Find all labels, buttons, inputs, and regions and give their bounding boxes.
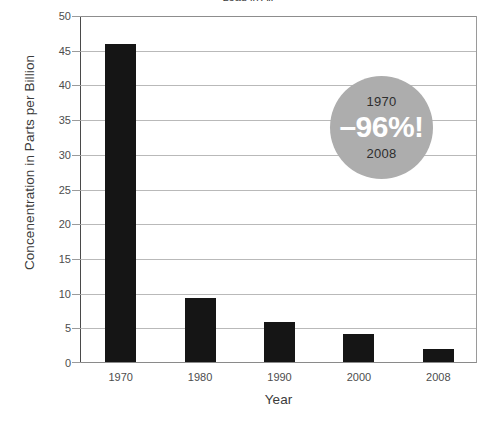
x-axis-tick-label: 1990 [267,371,291,383]
y-axis-tick-label: 45 [35,45,81,57]
annotation-end-year: 2008 [366,147,396,160]
gridline [81,51,476,52]
y-axis-tick-label: 40 [35,79,81,91]
gridline [81,362,476,363]
gridline [81,190,476,191]
gridline [81,85,476,86]
annotation-start-year: 1970 [366,95,396,108]
gridline [81,224,476,225]
y-axis-tick-label: 5 [35,322,81,334]
percent-change-annotation: 1970 –96%! 2008 [330,76,433,179]
y-axis-title: Concenentration in Parts per Billion [22,13,37,313]
y-axis-tick-label: 35 [35,114,81,126]
y-axis-tick-label: 25 [35,184,81,196]
x-axis-tick-label: 1980 [188,371,212,383]
gridline [81,259,476,260]
chart-page: Lead in Air Concenentration in Parts per… [0,0,497,427]
cropped-chart-title: Lead in Air [0,0,497,3]
bar-1980 [185,298,216,362]
x-axis-tick-label: 2000 [347,371,371,383]
bar-2008 [423,349,454,362]
x-axis-tick-label: 2008 [426,371,450,383]
bar-2000 [343,334,374,362]
annotation-percent-change: –96%! [339,112,423,142]
bar-1990 [264,322,295,362]
y-axis-tick-label: 50 [35,10,81,22]
plot-area: 0510152025303540455019701980199020002008 [80,16,477,363]
y-axis-tick-label: 15 [35,253,81,265]
y-axis-tick-label: 10 [35,288,81,300]
y-axis-tick-label: 20 [35,218,81,230]
gridline [81,16,476,17]
y-axis-tick-label: 30 [35,149,81,161]
y-axis-tick-label: 0 [35,357,81,369]
x-axis-title: Year [80,392,477,407]
gridline [81,294,476,295]
bar-1970 [105,44,136,362]
x-axis-tick-label: 1970 [108,371,132,383]
